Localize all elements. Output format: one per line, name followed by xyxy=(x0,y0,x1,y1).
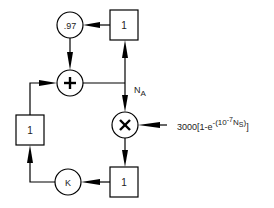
arrow-bottom-box-to-k xyxy=(81,179,110,185)
arrow-junction-to-mult xyxy=(122,83,128,112)
arrow-mult-to-bottom-box xyxy=(122,138,128,167)
gain-097-node: .97 xyxy=(57,12,83,38)
left-unit-box: 1 xyxy=(16,115,44,145)
arrow-left-box-to-sum xyxy=(30,80,57,115)
multiplier-junction xyxy=(112,112,138,138)
block-diagram: 1 .97 NA xyxy=(0,0,274,208)
signal-na-label: NA xyxy=(134,85,147,98)
gain-k-node: K xyxy=(55,169,81,195)
arrow-top-box-to-gain xyxy=(83,22,110,28)
gain-k-label: K xyxy=(65,178,71,188)
summing-junction xyxy=(57,70,83,96)
arrow-junction-to-top-box xyxy=(122,40,128,83)
arrow-gain-to-sum xyxy=(67,38,73,70)
top-unit-box-label: 1 xyxy=(121,20,127,31)
arrow-k-to-left-box xyxy=(27,145,55,182)
left-unit-box-label: 1 xyxy=(27,125,33,136)
bottom-unit-box-label: 1 xyxy=(121,177,127,188)
top-unit-box: 1 xyxy=(110,10,138,40)
input-expression: 3000[1-e-(10-7NS)] xyxy=(177,116,249,132)
bottom-unit-box: 1 xyxy=(110,167,138,197)
arrow-input-to-mult xyxy=(138,122,167,128)
gain-097-label: .97 xyxy=(64,21,77,31)
